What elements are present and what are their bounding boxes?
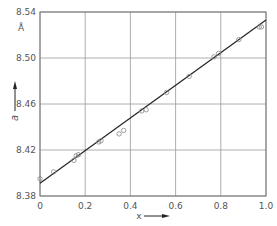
fit-line [40, 20, 266, 183]
data-point [121, 128, 125, 132]
x-tick-label: 0.4 [123, 201, 138, 211]
x-tick-label: 0.2 [78, 201, 92, 211]
y-axis-arrow-icon [13, 81, 17, 89]
y-tick-label: 8.42 [16, 145, 36, 155]
x-tick-labels: 00.20.40.60.81.0 [37, 201, 273, 211]
y-tick-label: 8.38 [16, 191, 36, 201]
x-tick-label: 1.0 [259, 201, 274, 211]
grid-lines [40, 12, 266, 196]
x-tick-label: 0.8 [214, 201, 229, 211]
x-axis-arrow-icon [162, 214, 170, 218]
y-tick-labels: 8.388.428.468.508.54 [16, 7, 36, 201]
chart: 8.388.428.468.508.54 00.20.40.60.81.0 Å … [0, 0, 277, 226]
data-point [117, 132, 121, 136]
y-tick-label: 8.54 [16, 7, 36, 17]
x-tick-label: 0 [37, 201, 43, 211]
x-tick-label: 0.6 [168, 201, 183, 211]
x-axis-label-text: x [136, 211, 142, 221]
y-unit-label: Å [18, 22, 25, 33]
x-axis-label: x [136, 211, 170, 221]
y-axis-label-text: a [9, 115, 20, 121]
y-tick-label: 8.46 [16, 99, 36, 109]
data-point [144, 108, 148, 112]
y-tick-label: 8.50 [16, 53, 36, 63]
fit-line-path [40, 20, 266, 183]
